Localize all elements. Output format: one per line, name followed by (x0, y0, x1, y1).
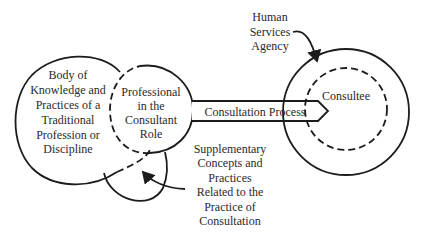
text-line: Practice of (204, 200, 256, 214)
body-of-knowledge-label: Body of Knowledge and Practices of a Tra… (30, 68, 106, 156)
text-line: in the (138, 99, 165, 113)
text-line: Discipline (43, 142, 92, 156)
text-line: Practices of a (36, 98, 101, 112)
agency-pointer-arrow (293, 31, 317, 61)
text-line: Concepts and (198, 156, 263, 170)
text-line: Traditional (42, 113, 96, 127)
text-line: Human (252, 10, 287, 24)
text-line: Role (140, 127, 163, 141)
text-line: Profession or (36, 128, 100, 142)
text-line: Consultant (125, 113, 178, 127)
text-line: Practices (208, 171, 252, 185)
text-line: Consultation (199, 214, 260, 228)
text-line: Agency (251, 39, 288, 53)
supplementary-lobe (104, 152, 167, 201)
text-line: Professional (121, 85, 181, 99)
text-line: Services (250, 25, 291, 39)
agency-label: Human Services Agency (250, 10, 291, 53)
text-line: Knowledge and (30, 83, 106, 97)
professional-label: Professional in the Consultant Role (121, 85, 181, 141)
consultation-process-label: Consultation Process (205, 105, 306, 119)
text-line: Related to the (197, 185, 264, 199)
text-line: Supplementary (194, 142, 267, 156)
consultation-diagram: Body of Knowledge and Practices of a Tra… (0, 0, 427, 239)
consultee-label: Consultee (322, 89, 370, 103)
text-line: Body of (49, 68, 88, 82)
supplementary-label: Supplementary Concepts and Practices Rel… (194, 142, 267, 228)
